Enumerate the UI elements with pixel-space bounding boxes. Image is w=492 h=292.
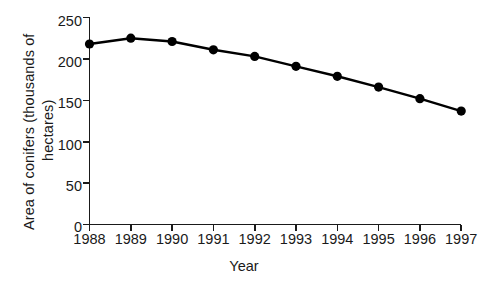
data-point-1988 [85,39,94,48]
data-point-1997 [457,106,466,115]
data-point-1991 [209,45,218,54]
data-point-1990 [168,37,177,46]
x-tick-label-1996: 1996 [398,232,442,247]
y-axis-ticks [83,18,90,225]
x-axis-title-text: Year [229,258,258,274]
x-tick-label-1990: 1990 [150,232,194,247]
x-tick-label-1997: 1997 [439,232,483,247]
data-point-1996 [415,94,424,103]
data-line-series-1 [90,38,462,111]
x-tick-label-1991: 1991 [191,232,235,247]
data-point-1993 [291,62,300,71]
line-chart: Area of conifers (thousands of hectares)… [0,0,492,292]
x-tick-label-1989: 1989 [109,232,153,247]
x-axis-title: Year [0,258,492,274]
x-tick-label-1993: 1993 [274,232,318,247]
data-point-1994 [333,72,342,81]
x-axis-tick-labels: 1988 1989 1990 1991 1992 1993 1994 1995 … [0,232,492,252]
x-tick-label-1988: 1988 [68,232,112,247]
x-tick-label-1992: 1992 [233,232,277,247]
data-point-markers [85,34,466,116]
data-point-1992 [250,52,259,61]
x-tick-label-1994: 1994 [315,232,359,247]
data-point-1989 [126,34,135,43]
data-point-1995 [374,82,383,91]
axis-lines [90,18,462,225]
x-tick-label-1995: 1995 [357,232,401,247]
